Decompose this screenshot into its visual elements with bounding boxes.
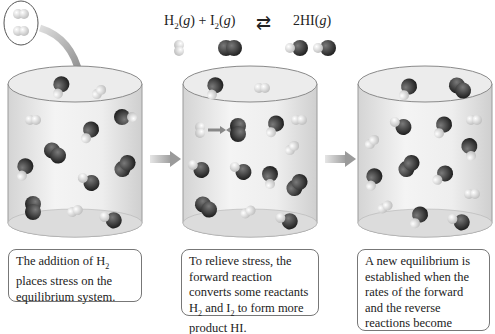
caption-forward-reaction: To relieve stress, the forward reaction … bbox=[181, 249, 319, 316]
caption-stress-added: The addition of H2 places stress on the … bbox=[8, 249, 142, 302]
equation-i2-molecule-icon bbox=[218, 40, 242, 56]
cylinder-1 bbox=[8, 66, 142, 237]
equation-hi-molecule-icon bbox=[285, 40, 308, 56]
equation-hi-molecule-icon bbox=[313, 40, 336, 56]
cylinder-2 bbox=[183, 66, 317, 237]
cylinder-3 bbox=[358, 66, 492, 237]
equation-h2-molecule-icon bbox=[174, 40, 184, 56]
caption-new-equilibrium: A new equilibrium is established when th… bbox=[357, 249, 490, 331]
